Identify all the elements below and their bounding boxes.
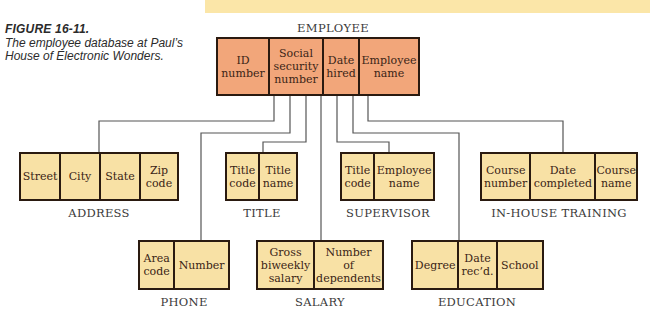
training-record: Course number Date completed Course name — [480, 152, 638, 201]
phone-record: Area code Number — [138, 240, 230, 290]
address-label: ADDRESS — [68, 206, 129, 220]
connector-training — [368, 95, 563, 153]
education-label: EDUCATION — [438, 295, 516, 309]
title-label: TITLE — [243, 206, 280, 220]
training-label: IN-HOUSE TRAINING — [491, 206, 627, 220]
connector-supervisor — [337, 95, 389, 153]
field-employee-name: Employee name — [360, 39, 418, 94]
title-record: Title code Title name — [225, 152, 298, 201]
field-social-security-number: Social security number — [270, 39, 324, 94]
field-title-code: Title code — [227, 154, 260, 199]
field-gross-biweekly-salary: Gross biweekly salary — [258, 242, 315, 288]
field-date-received: Date rec’d. — [459, 242, 497, 288]
employee-label: EMPLOYEE — [297, 21, 369, 35]
field-date-hired: Date hired — [324, 39, 360, 94]
connector-title — [263, 95, 306, 153]
field-degree: Degree — [413, 242, 459, 288]
field-state: State — [101, 154, 141, 199]
education-record: Degree Date rec’d. School — [411, 240, 544, 290]
field-course-number: Course number — [482, 154, 531, 199]
field-title-name: Title name — [260, 154, 296, 199]
salary-record: Gross biweekly salary Number of dependen… — [256, 240, 384, 290]
field-supervisor-title-code: Title code — [342, 154, 375, 199]
field-id-number: ID number — [218, 39, 270, 94]
connector-address — [99, 95, 274, 153]
field-supervisor-employee-name: Employee name — [375, 154, 433, 199]
employee-record: ID number Social security number Date hi… — [216, 37, 420, 96]
field-phone-number: Number — [175, 242, 228, 288]
field-zip-code: Zip code — [141, 154, 177, 199]
field-area-code: Area code — [140, 242, 175, 288]
supervisor-label: SUPERVISOR — [346, 206, 430, 220]
field-number-of-dependents: Number of dependents — [315, 242, 382, 288]
field-school: School — [498, 242, 542, 288]
address-record: Street City State Zip code — [19, 152, 179, 201]
supervisor-record: Title code Employee name — [340, 152, 435, 201]
field-street: Street — [21, 154, 61, 199]
field-date-completed: Date completed — [531, 154, 596, 199]
phone-label: PHONE — [160, 295, 207, 309]
field-city: City — [61, 154, 101, 199]
field-course-name: Course name — [596, 154, 636, 199]
salary-label: SALARY — [295, 295, 345, 309]
